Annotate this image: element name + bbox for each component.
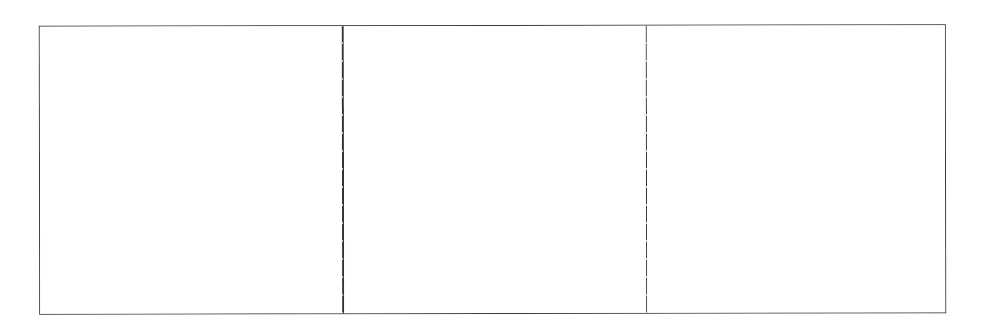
panel-1 <box>40 26 342 313</box>
page-canvas <box>0 0 983 327</box>
three-panel-frame <box>39 24 946 314</box>
panel-3 <box>647 25 945 312</box>
panel-2 <box>343 26 645 313</box>
